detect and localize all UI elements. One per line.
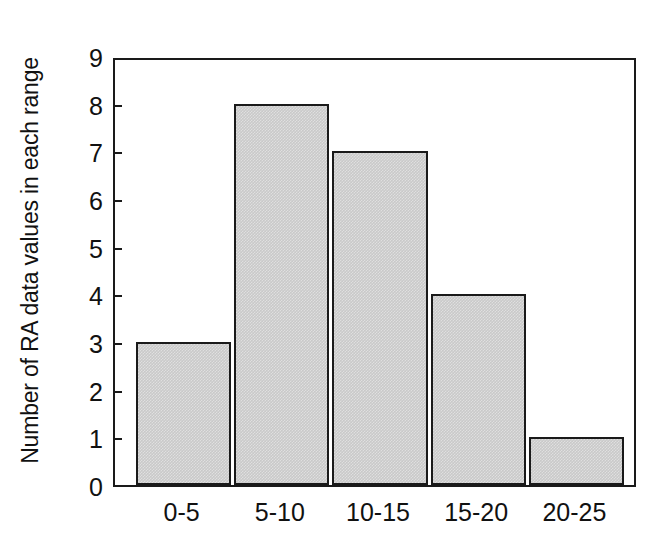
x-axis-tick-label: 5-10: [232, 500, 327, 525]
histogram-figure: Number of RA data values in each range 0…: [0, 0, 664, 547]
y-axis-tick-label: 2: [59, 379, 103, 404]
y-axis-tick-label: 3: [59, 332, 103, 357]
x-axis-tick-label: 0-5: [134, 500, 229, 525]
bar: [332, 151, 427, 485]
bar: [136, 342, 231, 485]
x-axis-tick-label: 20-25: [527, 500, 622, 525]
bar: [529, 437, 624, 485]
y-axis-tick-label: 1: [59, 427, 103, 452]
x-axis-tick-label: 10-15: [330, 500, 425, 525]
bar-series: [115, 60, 634, 485]
y-axis-tick-label: 7: [59, 141, 103, 166]
y-axis-tick-label: 5: [59, 236, 103, 261]
y-axis-tick-label: 8: [59, 93, 103, 118]
y-axis-title-container: Number of RA data values in each range: [0, 0, 60, 520]
y-axis-tick-label: 9: [59, 46, 103, 71]
y-axis-tick-label: 0: [59, 475, 103, 500]
x-axis-tick-label: 15-20: [429, 500, 524, 525]
y-axis-title: Number of RA data values in each range: [17, 57, 44, 464]
plot-area-frame: [113, 58, 636, 487]
y-axis-tick-label: 6: [59, 189, 103, 214]
bar: [431, 294, 526, 485]
bar: [234, 104, 329, 485]
y-axis-tick-label: 4: [59, 284, 103, 309]
